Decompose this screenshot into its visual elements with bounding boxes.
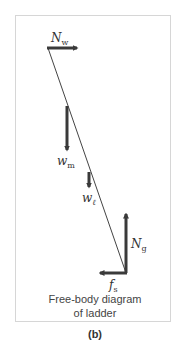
label-f_s: fs (109, 279, 118, 291)
caption-line-1: Free-body diagram (40, 292, 150, 306)
panel-label: (b) (75, 328, 115, 340)
figure-caption: Free-body diagram of ladder (40, 292, 150, 320)
label-w_m: wm (57, 155, 75, 167)
label-N_g: Ng (131, 238, 147, 250)
label-w_l: wℓ (82, 192, 96, 204)
free-body-diagram-figure: Nw wm wℓ Ng fs Free-body diagram of ladd… (0, 0, 180, 353)
label-N_w: Nw (51, 32, 68, 44)
caption-line-2: of ladder (40, 306, 150, 320)
